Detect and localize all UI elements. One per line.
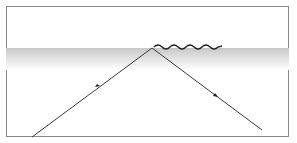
incident-ray (32, 48, 152, 137)
evanescent-wave (154, 45, 222, 49)
reflected-ray (152, 48, 262, 130)
ray-diagram (0, 0, 297, 143)
